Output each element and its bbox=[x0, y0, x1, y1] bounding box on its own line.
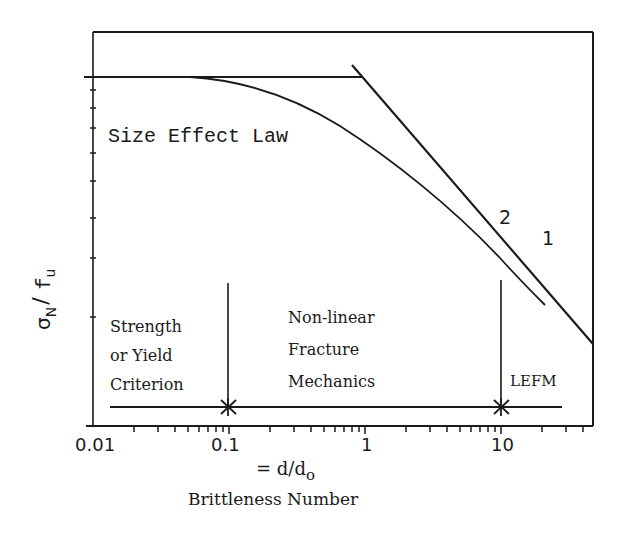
svg-text:Non-linear: Non-linear bbox=[288, 308, 375, 327]
x-tick-label-0.1: 0.1 bbox=[211, 434, 240, 455]
curve-label-1: 1 bbox=[542, 227, 554, 249]
x-axis-label-equation: = d/do bbox=[256, 458, 315, 484]
region-label-nonlinear: Non-linear Fracture Mechanics bbox=[288, 308, 375, 391]
chart-title: Size Effect Law bbox=[108, 125, 288, 148]
svg-text:Mechanics: Mechanics bbox=[288, 372, 375, 391]
curve-label-2: 2 bbox=[499, 206, 511, 228]
svg-text:or Yield: or Yield bbox=[110, 346, 173, 365]
y-axis-label: σN/fu bbox=[28, 269, 59, 330]
svg-text:Criterion: Criterion bbox=[110, 375, 184, 394]
plot-frame bbox=[86, 32, 593, 426]
size-effect-chart: Size Effect Law 2 1 Strength or Yield Cr… bbox=[0, 0, 623, 537]
x-axis-ticks bbox=[134, 426, 583, 434]
svg-text:Strength: Strength bbox=[110, 317, 182, 336]
svg-text:σN/fu: σN/fu bbox=[28, 269, 59, 330]
region-label-strength: Strength or Yield Criterion bbox=[110, 317, 184, 394]
x-tick-label-0.01: 0.01 bbox=[75, 434, 115, 455]
x-axis-label-name: Brittleness Number bbox=[188, 489, 359, 509]
size-effect-curve-2 bbox=[93, 77, 545, 305]
x-tick-label-1: 1 bbox=[361, 434, 372, 455]
region-label-lefm: LEFM bbox=[510, 372, 557, 390]
svg-text:Fracture: Fracture bbox=[288, 340, 359, 359]
lefm-line-1 bbox=[352, 65, 593, 344]
x-tick-label-10: 10 bbox=[491, 434, 514, 455]
